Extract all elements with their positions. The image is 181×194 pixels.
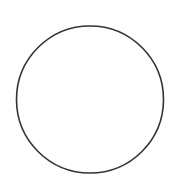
diagram-svg — [0, 0, 181, 194]
circle-shape — [17, 26, 164, 173]
diagram-canvas — [0, 0, 181, 194]
